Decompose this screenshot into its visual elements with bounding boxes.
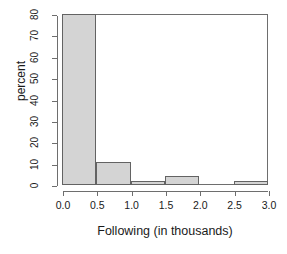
y-axis-tick-label: 80	[29, 0, 40, 30]
x-axis-tick-label: 1.5	[149, 199, 183, 211]
y-axis-tick	[52, 58, 57, 59]
histogram-bar	[165, 176, 199, 185]
x-axis-tick-label: 2.5	[218, 199, 252, 211]
histogram-bar	[96, 162, 130, 186]
x-axis-tick	[200, 191, 201, 196]
histogram-figure: percent 01020304050607080 0.00.51.01.52.…	[0, 0, 287, 254]
x-axis-tick-label: 2.0	[183, 199, 217, 211]
y-axis-title: percent	[14, 41, 28, 121]
y-axis-tick	[52, 122, 57, 123]
x-axis-title: Following (in thousands)	[62, 224, 268, 238]
x-axis-tick	[97, 191, 98, 196]
y-axis-line	[57, 16, 58, 186]
y-axis-tick	[52, 186, 57, 187]
x-axis-tick-label: 1.0	[115, 199, 149, 211]
y-axis-tick	[52, 36, 57, 37]
plot-area	[62, 14, 268, 185]
histogram-bar	[234, 181, 268, 185]
x-axis-tick	[166, 191, 167, 196]
histogram-bar	[62, 14, 96, 185]
x-axis-tick-label: 3.0	[252, 199, 286, 211]
x-axis-tick	[269, 191, 270, 196]
y-axis-tick	[52, 79, 57, 80]
x-axis-tick	[63, 191, 64, 196]
y-axis-tick	[52, 101, 57, 102]
y-axis-tick	[52, 165, 57, 166]
x-axis-tick-label: 0.0	[46, 199, 80, 211]
x-axis-tick	[235, 191, 236, 196]
histogram-bar	[131, 181, 165, 185]
y-axis-tick	[52, 143, 57, 144]
y-axis-tick	[52, 15, 57, 16]
x-axis-tick-label: 0.5	[80, 199, 114, 211]
x-axis-tick	[132, 191, 133, 196]
